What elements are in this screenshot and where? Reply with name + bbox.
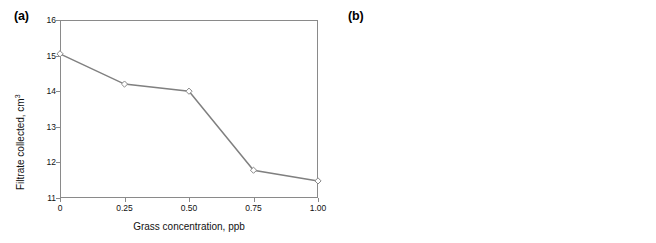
line-series-a	[60, 20, 318, 198]
x-axis-ticks-a: 00.250.500.751.00	[60, 203, 318, 217]
x-tick-label-a: 0.50	[181, 203, 198, 213]
y-axis-title-a: Filtrate collected, cm3	[14, 94, 26, 190]
y-tick-label-a: 14	[47, 86, 56, 96]
panel-a-line-chart: (a) 161514131211 00.250.500.751.00 Grass…	[0, 0, 330, 243]
data-point-marker-a	[121, 81, 127, 87]
x-tick-label-a: 0	[58, 203, 63, 213]
x-axis-title-a: Grass concentration, ppb	[60, 221, 318, 232]
y-axis-title-a-text: Filtrate collected, cm	[15, 98, 26, 190]
data-point-marker-a	[315, 178, 321, 184]
panel-b-bar-chart: (b) 0510152025 0.250.500.751.00 Grass co…	[330, 0, 656, 243]
y-tick-label-a: 13	[47, 122, 56, 132]
x-tick-label-a: 1.00	[310, 203, 327, 213]
x-tick-label-a: 0.25	[116, 203, 133, 213]
y-axis-title-a-superscript: 3	[14, 94, 21, 98]
y-tick-label-a: 16	[47, 15, 56, 25]
figure-container: (a) 161514131211 00.250.500.751.00 Grass…	[0, 0, 656, 243]
x-tick-mark-a	[125, 198, 126, 202]
y-tick-label-a: 11	[47, 193, 56, 203]
x-tick-label-a: 0.75	[245, 203, 262, 213]
line-path-a	[60, 54, 318, 181]
x-tick-mark-a	[60, 198, 61, 202]
y-tick-label-a: 12	[47, 157, 56, 167]
x-tick-mark-a	[189, 198, 190, 202]
x-tick-mark-a	[254, 198, 255, 202]
y-tick-label-a: 15	[47, 51, 56, 61]
panel-b-label: (b)	[348, 9, 363, 23]
x-tick-mark-a	[318, 198, 319, 202]
y-axis-ticks-a: 161514131211	[22, 20, 56, 198]
